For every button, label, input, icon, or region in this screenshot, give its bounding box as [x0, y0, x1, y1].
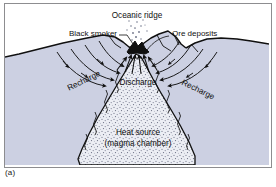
figure-stage: Oceanic ridge Black smoker Ore deposits … [0, 0, 276, 187]
figure-frame: Oceanic ridge Black smoker Ore deposits … [4, 3, 272, 168]
label-magma-chamber: (magma chamber) [105, 139, 172, 148]
label-ore-deposits: Ore deposits [172, 29, 217, 38]
figure-caption: (a) [5, 168, 15, 177]
label-oceanic-ridge: Oceanic ridge [112, 11, 163, 20]
label-discharge: Discharge [120, 78, 157, 87]
label-black-smoker: Black smoker [69, 29, 117, 38]
cross-section-diagram: Oceanic ridge Black smoker Ore deposits … [5, 4, 269, 165]
label-heat-source: Heat source [116, 128, 161, 137]
